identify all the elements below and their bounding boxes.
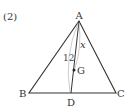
triangle-diagram: (2) A B C D G 12 x <box>0 0 133 109</box>
point-label-d: D <box>67 97 75 108</box>
vertex-label-c: C <box>117 88 125 99</box>
vertex-label-a: A <box>75 10 84 21</box>
point-label-g: G <box>77 65 85 76</box>
problem-number-label: (2) <box>3 11 17 22</box>
length-label-ad: 12 <box>63 53 74 63</box>
vertex-label-b: B <box>19 88 26 99</box>
centroid-point-g <box>73 69 76 72</box>
length-label-ag: x <box>80 39 86 50</box>
